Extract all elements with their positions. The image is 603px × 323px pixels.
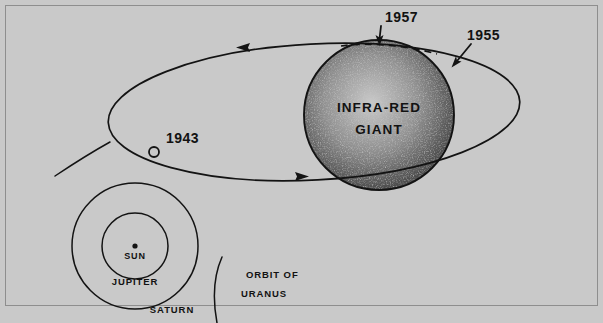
label-jupiter: JUPITER bbox=[112, 276, 158, 287]
label-uranus-line1: ORBIT OF bbox=[246, 269, 299, 280]
label-giant-line1: INFRA-RED bbox=[337, 100, 421, 115]
figure-border bbox=[6, 6, 598, 306]
diagram-canvas: 1957 1955 1943 INFRA-RED GIANT SUN JUPIT… bbox=[0, 0, 603, 323]
label-year-1943: 1943 bbox=[166, 130, 199, 146]
astronomy-diagram-figure: 1957 1955 1943 INFRA-RED GIANT SUN JUPIT… bbox=[0, 0, 603, 323]
label-giant-line2: GIANT bbox=[355, 122, 403, 137]
sun-dot bbox=[132, 243, 137, 248]
label-year-1957: 1957 bbox=[385, 9, 418, 25]
uranus-orbit-arc-upper bbox=[55, 142, 110, 176]
label-saturn: SATURN bbox=[150, 304, 194, 315]
label-uranus-line2: URANUS bbox=[241, 288, 287, 299]
label-sun: SUN bbox=[124, 251, 146, 261]
solar-system-inset bbox=[72, 183, 198, 309]
uranus-orbit-arc-lower bbox=[214, 257, 222, 323]
giant-stipple-texture bbox=[300, 36, 460, 196]
comet-position-marker-1943 bbox=[149, 147, 159, 157]
infra-red-giant bbox=[300, 36, 460, 196]
label-year-1955: 1955 bbox=[467, 27, 500, 43]
